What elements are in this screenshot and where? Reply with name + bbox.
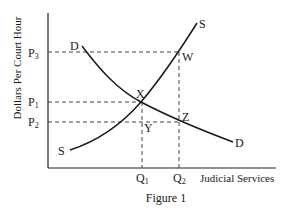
price-label-p3: P3 <box>28 46 39 61</box>
svg-text:P3: P3 <box>28 46 39 61</box>
point-label-y: Y <box>144 121 153 135</box>
demand-label-bottom: D <box>235 136 244 150</box>
demand-curve <box>82 46 233 142</box>
svg-text:P2: P2 <box>28 115 39 130</box>
svg-text:P1: P1 <box>28 95 39 110</box>
price-label-p2: P2 <box>28 115 39 130</box>
svg-text:Q1: Q1 <box>136 171 149 186</box>
demand-label-top: D <box>70 39 79 53</box>
supply-demand-diagram: Dollars Per Court Hour P3 P1 P2 Q1 Q2 Ju… <box>0 0 289 212</box>
point-label-z: Z <box>182 110 189 124</box>
quantity-label-q2: Q2 <box>173 171 186 186</box>
figure-caption: Figure 1 <box>146 191 186 205</box>
point-label-x: X <box>136 87 145 101</box>
quantity-label-q1: Q1 <box>136 171 149 186</box>
svg-text:Q2: Q2 <box>173 171 186 186</box>
price-label-p1: P1 <box>28 95 39 110</box>
supply-label-top: S <box>199 17 206 31</box>
supply-curve <box>70 23 197 150</box>
y-axis-label: Dollars Per Court Hour <box>11 16 23 119</box>
x-axis-label: Judicial Services <box>200 172 274 184</box>
point-label-w: W <box>182 50 194 64</box>
supply-label-bottom: S <box>58 144 65 158</box>
